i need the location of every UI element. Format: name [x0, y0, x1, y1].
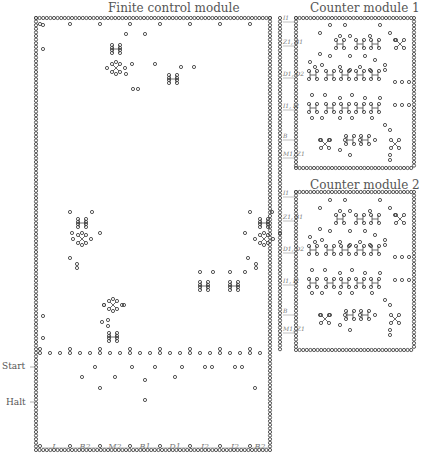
tile-assembly-diagram — [0, 0, 429, 454]
